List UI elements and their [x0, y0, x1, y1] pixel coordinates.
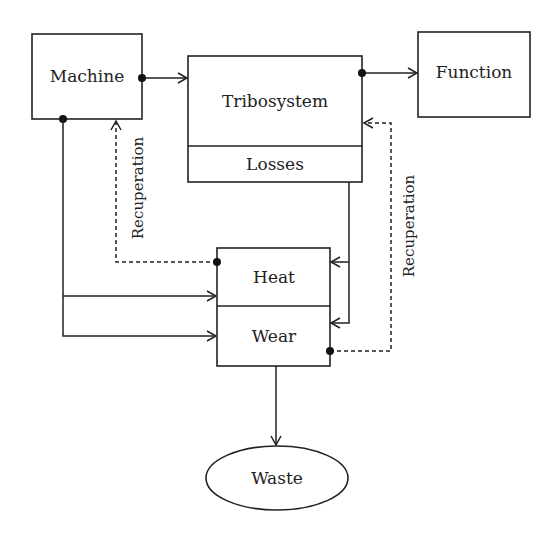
connector-dot	[326, 347, 334, 355]
edge-machine-tribosystem	[138, 73, 187, 83]
tribosystem-diagram: Machine Tribosystem Losses Function Heat…	[0, 0, 558, 541]
edge-losses-heat-wear	[331, 182, 349, 328]
machine-label: Machine	[50, 66, 124, 86]
recuperation-left-label: Recuperation	[129, 136, 147, 239]
connector-dot	[358, 69, 366, 77]
machine-node: Machine	[32, 34, 142, 119]
edge-wear-waste	[271, 366, 281, 445]
connector-dot	[213, 258, 221, 266]
heat-label: Heat	[253, 267, 295, 287]
heat-wear-node: Heat Wear	[217, 248, 330, 366]
tribosystem-label: Tribosystem	[222, 91, 328, 111]
waste-node: Waste	[206, 446, 348, 510]
function-label: Function	[436, 62, 513, 82]
edge-tribosystem-function	[358, 68, 417, 78]
connector-dot	[138, 74, 146, 82]
tribosystem-node: Tribosystem Losses	[188, 56, 362, 182]
wear-label: Wear	[252, 326, 297, 346]
function-node: Function	[418, 32, 530, 117]
waste-label: Waste	[251, 468, 303, 488]
recuperation-right-label: Recuperation	[400, 174, 418, 277]
losses-label: Losses	[246, 154, 304, 174]
